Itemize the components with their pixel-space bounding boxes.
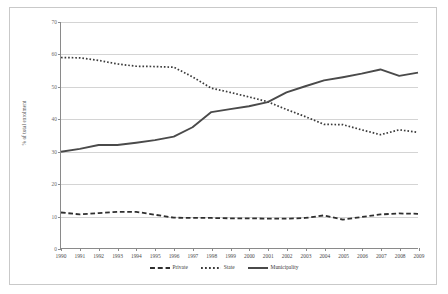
x-tick-label: 1990 (56, 253, 67, 259)
x-tick-label: 1994 (131, 253, 142, 259)
series-lines (61, 22, 418, 248)
x-tick-mark (344, 248, 345, 251)
x-tick-mark (80, 248, 81, 251)
x-tick-mark (212, 248, 213, 251)
x-tick-label: 1995 (150, 253, 161, 259)
x-tick-label: 2005 (338, 253, 349, 259)
legend-label: State (224, 264, 235, 270)
x-tick-mark (306, 248, 307, 251)
legend-item-private[interactable]: Private (150, 264, 188, 270)
y-tick-label: 30 (52, 149, 57, 155)
x-tick-label: 1998 (206, 253, 217, 259)
x-tick-label: 1993 (112, 253, 123, 259)
series-line-state (61, 58, 418, 135)
x-tick-label: 2006 (357, 253, 368, 259)
x-tick-label: 2000 (244, 253, 255, 259)
y-tick-label: 40 (52, 116, 57, 122)
x-tick-mark (136, 248, 137, 251)
x-tick-label: 1991 (74, 253, 85, 259)
x-tick-label: 1996 (169, 253, 180, 259)
chart-figure: % of total enrolment 010203040506070 199… (9, 7, 437, 285)
x-tick-mark (287, 248, 288, 251)
legend-label: Municipality (271, 264, 299, 270)
y-tick-label: 0 (54, 246, 57, 252)
legend-swatch-dashed-icon (150, 266, 170, 269)
series-line-private (61, 212, 418, 220)
plot-area: 010203040506070 199019911992199319941995… (60, 22, 418, 249)
y-tick-label: 10 (52, 214, 57, 220)
series-line-municipality (61, 69, 418, 151)
x-tick-mark (155, 248, 156, 251)
x-tick-label: 2004 (319, 253, 330, 259)
y-tick-label: 60 (52, 51, 57, 57)
x-tick-label: 2008 (395, 253, 406, 259)
y-tick-label: 50 (52, 84, 57, 90)
x-tick-label: 2002 (282, 253, 293, 259)
legend-swatch-solid-icon (248, 266, 268, 269)
x-tick-label: 1997 (188, 253, 199, 259)
x-tick-mark (362, 248, 363, 251)
x-tick-mark (118, 248, 119, 251)
x-tick-mark (249, 248, 250, 251)
y-tick-label: 70 (52, 19, 57, 25)
x-tick-mark (174, 248, 175, 251)
x-tick-label: 1992 (93, 253, 104, 259)
x-tick-mark (61, 248, 62, 251)
x-tick-mark (325, 248, 326, 251)
x-tick-mark (193, 248, 194, 251)
x-tick-mark (400, 248, 401, 251)
x-tick-mark (268, 248, 269, 251)
legend-item-municipality[interactable]: Municipality (248, 264, 299, 270)
x-tick-mark (231, 248, 232, 251)
legend-swatch-dotted-icon (201, 266, 221, 269)
x-tick-label: 2009 (414, 253, 425, 259)
x-tick-label: 1999 (225, 253, 236, 259)
x-tick-label: 2003 (301, 253, 312, 259)
y-tick-label: 20 (52, 181, 57, 187)
x-tick-label: 2007 (376, 253, 387, 259)
x-tick-mark (99, 248, 100, 251)
y-axis-title: % of total enrolment (21, 63, 27, 183)
x-tick-mark (419, 248, 420, 251)
legend-item-state[interactable]: State (201, 264, 235, 270)
x-tick-mark (381, 248, 382, 251)
chart-legend: PrivateStateMunicipality (10, 264, 438, 270)
legend-label: Private (173, 264, 188, 270)
x-tick-label: 2001 (263, 253, 274, 259)
